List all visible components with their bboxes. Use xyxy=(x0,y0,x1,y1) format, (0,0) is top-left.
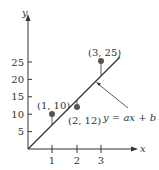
y-tick-label: 20 xyxy=(11,74,24,85)
x-tick-label: 1 xyxy=(49,155,55,166)
y-tick-label: 25 xyxy=(11,57,24,68)
x-ticks: 1 2 3 xyxy=(49,145,104,166)
x-tick-label: 3 xyxy=(98,155,104,166)
point-label: (3, 25) xyxy=(88,47,121,58)
y-tick-label: 5 xyxy=(18,126,24,137)
y-ticks: 5 10 15 20 25 xyxy=(11,57,32,138)
point-label: (2, 12) xyxy=(68,115,101,126)
y-tick-label: 10 xyxy=(11,109,24,120)
y-axis-label: y xyxy=(21,7,28,18)
data-point xyxy=(98,58,104,64)
regression-chart: y x 5 10 15 20 25 1 2 3 (1, 10) (2, 12) … xyxy=(0,0,159,170)
data-point xyxy=(74,104,80,110)
y-tick-label: 15 xyxy=(11,91,24,102)
data-point xyxy=(49,111,55,117)
x-axis-label: x xyxy=(140,143,146,154)
x-tick-label: 2 xyxy=(74,155,80,166)
point-label: (1, 10) xyxy=(37,100,70,111)
line-equation-label: y = ax + b xyxy=(102,112,156,123)
x-axis-arrow-icon xyxy=(131,147,138,152)
annotation-pointer xyxy=(97,83,128,108)
